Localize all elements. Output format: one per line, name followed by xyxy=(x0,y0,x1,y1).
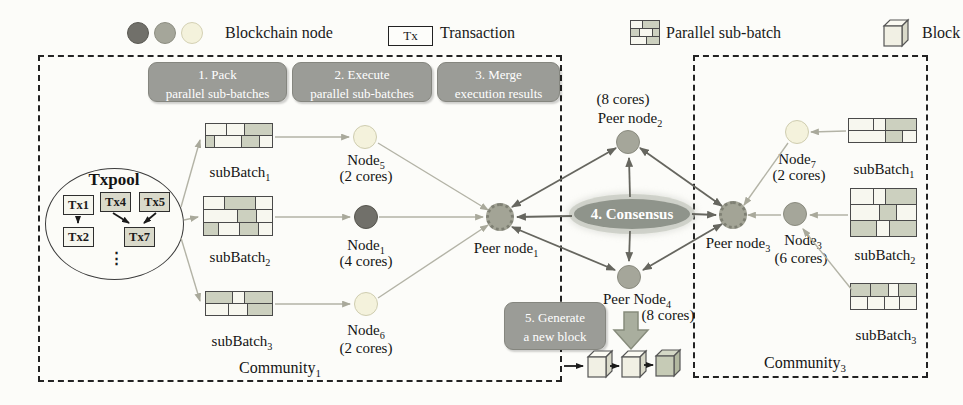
node6-circle xyxy=(354,292,378,316)
c1-subbatch1-label: subBatch1 xyxy=(210,164,271,183)
txpool-title: Txpool xyxy=(88,171,139,190)
c3-subbatch3-bricks xyxy=(850,283,917,310)
node7-circle xyxy=(785,120,809,144)
c3-subbatch3-label: subBatch3 xyxy=(856,327,917,346)
node3-circle xyxy=(783,202,807,226)
c1-subbatch1-bricks xyxy=(205,123,273,148)
peer-node4-circle xyxy=(617,265,641,289)
node3-cores: (6 cores) xyxy=(775,250,828,267)
tx2-box: Tx2 xyxy=(63,227,94,247)
tx5-box: Tx5 xyxy=(139,192,170,212)
node1-cores: (4 cores) xyxy=(340,253,393,270)
legend-block-label: Block xyxy=(922,24,960,42)
legend-subbatch-icon xyxy=(630,20,660,45)
node7-cores: (2 cores) xyxy=(773,167,826,184)
community1-label: Community1 xyxy=(239,359,321,380)
step2-execute-banner: 2. Executeparallel sub-batches xyxy=(292,62,432,102)
legend-subbatch-label: Parallel sub-batch xyxy=(666,24,781,42)
c1-subbatch2-bricks xyxy=(203,196,273,236)
legend-tx-icon: Tx xyxy=(388,26,433,46)
node6-label: Node6 xyxy=(347,322,385,341)
c3-subbatch1-bricks xyxy=(848,118,917,143)
figure-canvas: Blockchain node Tx Transaction Parallel … xyxy=(0,0,963,405)
c3-subbatch2-label: subBatch2 xyxy=(855,247,916,266)
peer-node2-cores: (8 cores) xyxy=(597,91,650,108)
peer-node1-circle xyxy=(486,203,514,231)
step3-merge-banner: 3. Mergeexecution results xyxy=(437,62,560,102)
peer-node3-circle xyxy=(719,201,747,229)
step5-generate-banner: 5. Generatea new block xyxy=(504,302,606,350)
node3-label: Node3 xyxy=(784,232,822,251)
node1-circle xyxy=(354,205,378,229)
legend-blockchain-node-label: Blockchain node xyxy=(225,24,333,42)
node5-circle xyxy=(353,125,377,149)
c1-subbatch2-label: subBatch2 xyxy=(210,249,271,268)
step1-pack-banner: 1. Packparallel sub-batches xyxy=(148,62,287,102)
tx7-box: Tx7 xyxy=(124,227,155,247)
legend-block-icon xyxy=(884,20,908,46)
legend-medium-node-icon xyxy=(154,22,176,44)
c3-subbatch2-bricks xyxy=(850,188,917,237)
block-chain-link-arrows xyxy=(564,365,653,366)
step4-consensus-ellipse: 4. Consensus xyxy=(574,199,690,229)
tx4-box: Tx4 xyxy=(100,192,131,212)
peer-node2-circle xyxy=(616,130,640,154)
peer-node4-cores: (8 cores) xyxy=(642,307,695,324)
legend-light-node-icon xyxy=(181,22,203,44)
node6-cores: (2 cores) xyxy=(340,340,393,357)
block-cube-2 xyxy=(622,351,646,377)
block-cube-1 xyxy=(588,351,612,377)
txpool-ellipsis: ⋮ xyxy=(109,249,124,267)
block-cube-3-new xyxy=(656,350,680,376)
node5-cores: (2 cores) xyxy=(340,168,393,185)
c3-subbatch1-label: subBatch1 xyxy=(854,161,915,180)
tx1-box: Tx1 xyxy=(63,195,94,215)
legend-transaction-label: Transaction xyxy=(440,24,515,42)
block-chain-cubes xyxy=(588,350,680,377)
peer-node2-label: Peer node2 xyxy=(598,110,663,129)
peer-node3-label: Peer node3 xyxy=(706,235,771,254)
c1-subbatch3-bricks xyxy=(205,291,273,316)
community3-label: Community3 xyxy=(764,354,846,375)
c1-subbatch3-label: subBatch3 xyxy=(212,333,273,352)
peer-node1-label: Peer node1 xyxy=(474,240,539,259)
legend-dark-node-icon xyxy=(127,22,149,44)
